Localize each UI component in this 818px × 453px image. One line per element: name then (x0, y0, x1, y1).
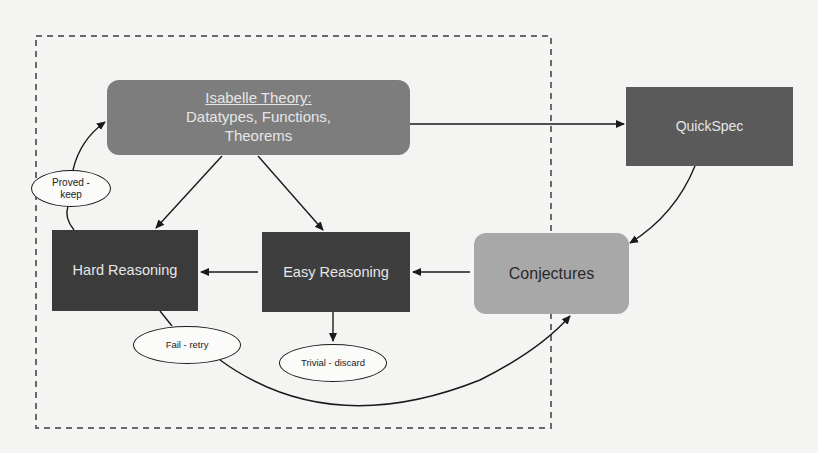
proved-line2: keep (60, 189, 82, 201)
trivial-discard-label: Trivial - discard (301, 357, 365, 368)
trivial-discard-ellipse: Trivial - discard (279, 344, 387, 382)
isabelle-title: Isabelle Theory: (205, 89, 311, 108)
conjectures-node: Conjectures (474, 233, 629, 314)
easy-reasoning-node: Easy Reasoning (262, 232, 410, 312)
edge-isabelle-hard (156, 156, 222, 228)
diagram-connectors (0, 0, 818, 453)
proved-keep-ellipse: Proved - keep (31, 170, 111, 207)
edge-isabelle-easy (258, 156, 323, 230)
edge-quickspec-conjectures (630, 166, 695, 243)
isabelle-theory-node: Isabelle Theory: Datatypes, Functions, T… (107, 80, 410, 155)
quickspec-label: QuickSpec (676, 118, 744, 136)
proved-line1: Proved - (52, 177, 90, 189)
edge-proved-isabelle (73, 122, 105, 170)
hard-reasoning-label: Hard Reasoning (73, 261, 178, 279)
fail-retry-label: Fail - retry (166, 339, 209, 350)
edge-hard-proved (67, 206, 74, 230)
isabelle-subtitle-line2: Theorems (225, 127, 293, 146)
quickspec-node: QuickSpec (626, 87, 793, 166)
edge-fail-conjectures (220, 316, 570, 406)
conjectures-label: Conjectures (509, 264, 594, 284)
hard-reasoning-node: Hard Reasoning (52, 230, 198, 311)
isabelle-subtitle-line1: Datatypes, Functions, (186, 108, 331, 127)
edge-hard-fail (160, 311, 172, 326)
fail-retry-ellipse: Fail - retry (133, 326, 241, 364)
easy-reasoning-label: Easy Reasoning (283, 263, 389, 281)
